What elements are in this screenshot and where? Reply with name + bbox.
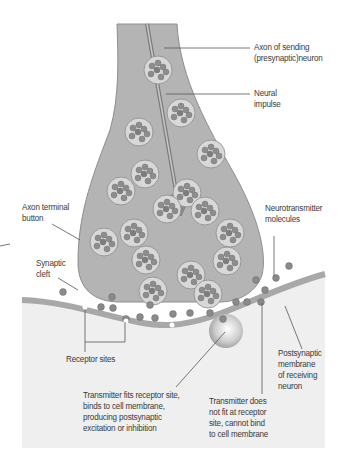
label-axon-terminal-button: Axon terminal button [22,202,69,224]
label-synaptic-cleft: Synaptic cleft [36,258,66,280]
label-postsynaptic-membrane: Postsynaptic membrane of receiving neuro… [278,348,322,392]
label-neurotransmitter-molecules: Neurotransmitter molecules [265,203,322,225]
label-receptor-sites: Receptor sites [66,354,115,365]
label-neural-impulse: Neural impulse [254,88,281,110]
label-transmitter-not-fit: Transmitter does not fit at receptor sit… [209,396,268,440]
label-transmitter-fits: Transmitter fits receptor site, binds to… [83,390,180,434]
label-axon-sending: Axon of sending (presynaptic)neuron [254,42,323,64]
